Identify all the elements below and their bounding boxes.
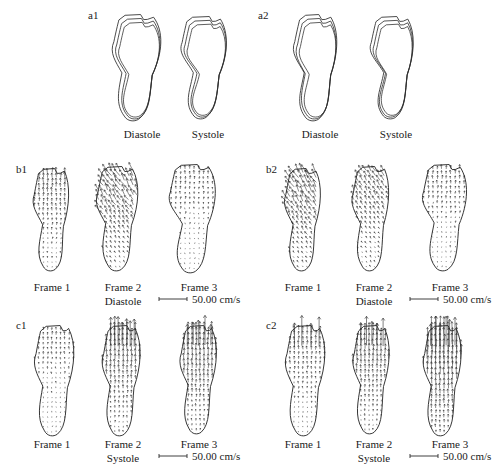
velocity-vector (363, 338, 365, 344)
velocity-vector (180, 206, 181, 208)
velocity-vector (459, 202, 460, 204)
velocity-vector (188, 394, 189, 397)
velocity-vector (381, 181, 384, 186)
velocity-vector (301, 237, 303, 239)
velocity-vector (316, 351, 317, 354)
velocity-vector (60, 337, 61, 339)
velocity-vector (123, 406, 124, 408)
velocity-vector (372, 384, 374, 387)
panel-label-a1: a1 (88, 10, 98, 21)
velocity-vector (302, 251, 304, 253)
velocity-vector (135, 359, 137, 364)
velocity-vector (211, 342, 213, 349)
velocity-vector (195, 369, 197, 373)
velocity-vector (450, 206, 451, 209)
velocity-vector (292, 232, 294, 235)
velocity-vector (60, 202, 62, 206)
velocity-vector (119, 405, 120, 408)
velocity-vector (455, 191, 456, 193)
velocity-vector (52, 222, 53, 225)
velocity-vector (298, 366, 299, 369)
velocity-vector (123, 401, 124, 403)
frame-label-b2-2: Frame 2 (356, 281, 392, 293)
velocity-vector (118, 365, 120, 369)
velocity-vector (208, 399, 209, 402)
velocity-vector (306, 331, 308, 335)
velocity-vector (130, 364, 132, 368)
velocity-vector (291, 206, 294, 210)
velocity-vector (200, 414, 201, 416)
velocity-vector (451, 251, 452, 253)
velocity-vector (52, 331, 54, 334)
velocity-vector (52, 256, 53, 258)
velocity-vector (185, 181, 187, 184)
figure-canvas: a1DiastoleSystolea2DiastoleSystoleb1Fram… (0, 0, 504, 475)
velocity-vector (381, 197, 384, 200)
velocity-vector (374, 221, 375, 224)
velocity-vector (464, 191, 465, 194)
velocity-vector (443, 373, 445, 379)
velocity-vector (376, 175, 380, 180)
velocity-vector (298, 381, 299, 383)
velocity-vector (189, 192, 190, 194)
velocity-vector (423, 196, 424, 198)
velocity-vector (179, 191, 180, 194)
lv-contour-stack-a2-0 (284, 14, 354, 130)
velocity-vector (184, 165, 186, 169)
velocity-vector (126, 370, 128, 374)
velocity-vector (43, 227, 44, 230)
velocity-vector (51, 207, 53, 210)
velocity-vector (122, 380, 124, 383)
velocity-vector (119, 216, 121, 219)
velocity-vector (356, 201, 358, 205)
velocity-vector (199, 228, 200, 230)
velocity-vector (319, 342, 320, 345)
velocity-vector (294, 386, 295, 388)
velocity-vector (460, 211, 461, 213)
velocity-vector (366, 251, 367, 253)
velocity-vector (123, 236, 125, 238)
velocity-vector (51, 193, 53, 197)
velocity-vector (301, 241, 302, 243)
velocity-vector (55, 189, 57, 192)
velocity-vector (64, 362, 65, 364)
velocity-vector (208, 187, 209, 189)
velocity-vector (464, 201, 465, 203)
velocity-vector (310, 237, 312, 240)
velocity-vector (130, 195, 133, 200)
velocity-vector (368, 181, 370, 185)
velocity-vector (110, 406, 111, 408)
velocity-vector (106, 251, 107, 252)
velocity-vector (113, 194, 116, 199)
velocity-vector (311, 231, 312, 234)
velocity-vector (303, 356, 305, 359)
velocity-vector (380, 390, 381, 392)
velocity-vector (377, 211, 379, 214)
velocity-vector (187, 358, 189, 363)
velocity-vector (360, 404, 361, 406)
velocity-vector (368, 349, 370, 354)
velocity-vector (56, 342, 57, 344)
velocity-vector (447, 389, 449, 393)
velocity-vector (443, 398, 445, 403)
velocity-vector (34, 357, 35, 359)
velocity-vector (292, 211, 294, 216)
velocity-vector (105, 206, 108, 210)
velocity-vector (450, 245, 451, 247)
velocity-vector (290, 367, 291, 369)
velocity-vector (203, 389, 204, 392)
velocity-vector (297, 341, 299, 345)
velocity-vector (116, 266, 117, 267)
velocity-vector (114, 365, 116, 369)
lv-outline (353, 326, 389, 434)
velocity-vector (320, 361, 321, 364)
velocity-vector (123, 415, 124, 417)
velocity-vector (51, 187, 53, 191)
velocity-vector (364, 384, 365, 387)
velocity-vector (127, 406, 128, 408)
velocity-vector (199, 352, 201, 358)
velocity-vector (373, 399, 374, 402)
velocity-vector (121, 173, 124, 180)
velocity-vector (52, 218, 53, 220)
velocity-vector (311, 391, 312, 393)
